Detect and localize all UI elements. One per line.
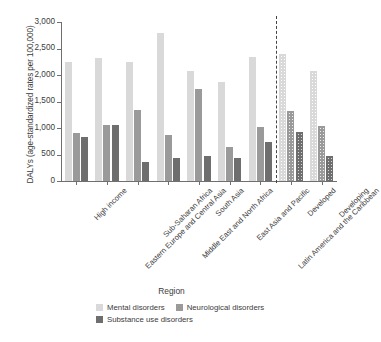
bar <box>187 71 194 181</box>
y-axis-tick-mark <box>57 181 61 182</box>
legend-row-1: Mental disorders Neurological disorders <box>96 303 336 312</box>
y-axis-tick-mark <box>57 155 61 156</box>
bar <box>142 162 149 181</box>
bar <box>296 132 303 181</box>
legend-swatch-icon-substance-use-disorders <box>96 316 103 323</box>
bar <box>287 111 294 181</box>
x-axis-tick-mark <box>107 181 108 185</box>
bar <box>112 125 119 181</box>
legend-label-neurological-disorders: Neurological disorders <box>187 303 265 312</box>
y-axis-title: DALYs (age-standardized rates per 100,00… <box>26 15 35 195</box>
bar <box>318 126 325 181</box>
x-axis-tick-mark <box>76 181 77 185</box>
bar-group <box>187 22 210 181</box>
bar <box>257 127 264 181</box>
x-axis-tick-mark <box>230 181 231 185</box>
legend-row-2: Substance use disorders <box>96 315 336 324</box>
bar-group <box>65 22 88 181</box>
bar <box>81 137 88 181</box>
y-axis-tick-label: 2,500 <box>35 43 56 52</box>
bar-group <box>249 22 272 181</box>
plot-area: 05001,0001,5002,0002,5003,000 <box>61 22 337 181</box>
bar <box>173 158 180 181</box>
bar <box>103 125 110 181</box>
x-axis-tick-mark <box>291 181 292 185</box>
bar <box>73 133 80 181</box>
x-axis-tick-mark <box>322 181 323 185</box>
y-axis-tick-label: 2,000 <box>35 70 56 79</box>
bar <box>204 156 211 181</box>
bar-group <box>95 22 118 181</box>
bar <box>95 58 102 181</box>
legend-label-substance-use-disorders: Substance use disorders <box>107 315 193 324</box>
legend-item-substance-use-disorders: Substance use disorders <box>96 315 193 324</box>
x-axis-tick-label: High income <box>93 186 129 222</box>
legend-swatch-icon-mental-disorders <box>96 304 103 311</box>
x-axis-tick-mark <box>168 181 169 185</box>
region-divider-line <box>276 16 277 183</box>
y-axis-tick-label: 1,000 <box>35 123 56 132</box>
x-axis-tick-mark <box>260 181 261 185</box>
x-axis-tick-mark <box>138 181 139 185</box>
x-axis-tick-label: Latin America and the Caribbean <box>297 186 381 271</box>
bar <box>126 62 133 182</box>
bar <box>134 110 141 181</box>
bar-group <box>218 22 241 181</box>
bar <box>234 158 241 181</box>
bar <box>218 82 225 181</box>
bar <box>157 33 164 181</box>
y-axis-tick-label: 500 <box>41 149 55 158</box>
bar <box>310 71 317 181</box>
bar-group <box>157 22 180 181</box>
bar-group <box>279 22 302 181</box>
bar <box>249 57 256 181</box>
legend-label-mental-disorders: Mental disorders <box>107 303 165 312</box>
bar <box>65 62 72 181</box>
bar <box>195 89 202 181</box>
bar <box>165 135 172 181</box>
bar <box>279 54 286 181</box>
legend-item-neurological-disorders: Neurological disorders <box>176 303 265 312</box>
y-axis-tick-label: 0 <box>50 176 55 185</box>
legend-item-mental-disorders: Mental disorders <box>96 303 165 312</box>
y-axis-tick-mark <box>57 75 61 76</box>
bar-group <box>126 22 149 181</box>
y-axis-tick-label: 3,000 <box>35 17 56 26</box>
x-axis-tick-mark <box>199 181 200 185</box>
bar <box>326 156 333 181</box>
bar <box>265 142 272 181</box>
bar <box>226 147 233 181</box>
y-axis-tick-mark <box>57 22 61 23</box>
y-axis-tick-mark <box>57 102 61 103</box>
chart-legend: Mental disorders Neurological disorders … <box>96 303 336 327</box>
y-axis-tick-label: 1,500 <box>35 96 56 105</box>
legend-swatch-icon-neurological-disorders <box>176 304 183 311</box>
y-axis-tick-mark <box>57 49 61 50</box>
y-axis-tick-mark <box>57 128 61 129</box>
x-axis-tick-label: Eastern Europe and Central Asia <box>143 186 228 271</box>
x-axis-title: Region <box>0 286 343 296</box>
y-axis-line <box>61 22 62 181</box>
bar-group <box>310 22 333 181</box>
